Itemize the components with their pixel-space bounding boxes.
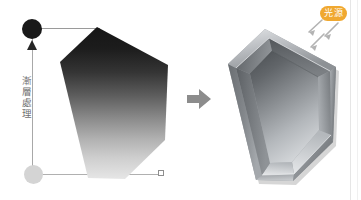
transform-arrow-icon <box>186 86 212 112</box>
gradient-process-label: 漸層處理 <box>18 76 32 120</box>
gradient-direction-arrow-icon <box>27 40 37 50</box>
light-ray-2 <box>325 23 338 36</box>
gradient-hexagon <box>55 18 180 188</box>
light-source-badge: 光源 <box>320 6 347 21</box>
arrow-right-icon <box>187 89 211 109</box>
gradient-hexagon-svg <box>55 18 180 188</box>
light-rays-svg <box>300 18 356 52</box>
gradient-end-handle[interactable] <box>24 165 43 184</box>
illustration-canvas: 漸層處理 <box>0 0 361 200</box>
transform-arrow <box>186 86 212 112</box>
light-source-rays <box>300 18 356 52</box>
light-ray-1 <box>309 20 322 32</box>
canvas-outer-divider <box>357 0 358 200</box>
gradient-hexagon-fill <box>60 27 168 179</box>
gradient-start-handle[interactable] <box>22 19 42 39</box>
gradient-axis-line <box>32 34 33 174</box>
bevel-ring-right <box>318 71 331 135</box>
